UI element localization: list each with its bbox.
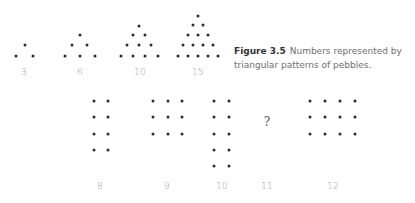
pebble-dot [71,44,74,47]
pebble-dot [79,34,82,37]
pebble-dot [197,15,200,18]
pebble-dot [177,55,180,58]
pebble-dot [32,55,35,58]
number-label: 3 [21,67,27,77]
pebble-dot [197,34,200,37]
number-label: 10 [134,67,146,77]
pebble-dot [157,55,160,58]
pebble-dot [213,149,216,152]
pebble-dot [24,44,27,47]
pebble-figure: 361015 8910?1112 Figure 3.5Numbers repre… [0,0,415,203]
number-label: 9 [164,181,170,191]
pebble-dot [339,133,342,136]
pebble-dot [354,133,357,136]
pebble-dot [192,44,195,47]
pebble-dot [354,100,357,103]
pebble-dot [228,116,231,119]
pebble-dot [217,55,220,58]
pebble-dot [94,55,97,58]
pebble-dot [93,100,96,103]
pebble-dot [120,55,123,58]
pebble-dot [152,116,155,119]
figure-label: Figure 3.5 [234,46,286,56]
number-label: 8 [97,181,103,191]
pebble-dot [132,55,135,58]
pebble-dot [126,44,129,47]
pebble-dot [213,100,216,103]
pebble-dot [132,34,135,37]
pebble-dot [228,149,231,152]
pebble-dot [197,55,200,58]
pebble-dot [152,133,155,136]
pebble-dot [93,116,96,119]
figure-caption: Figure 3.5Numbers represented by triangu… [234,44,414,72]
pebble-dot [15,55,18,58]
pebble-dot [167,100,170,103]
pebble-dot [339,116,342,119]
pebble-dot [182,44,185,47]
pebble-dot [93,149,96,152]
pebble-dot [181,116,184,119]
pebble-dot [107,133,110,136]
pebble-dot [228,100,231,103]
question-mark: ? [264,115,270,129]
pebble-dot [309,100,312,103]
pebble-dot [339,100,342,103]
pebble-dot [207,55,210,58]
pebble-dot [213,133,216,136]
number-label: 10 [216,181,228,191]
pebble-dot [213,165,216,168]
number-label: 6 [77,67,83,77]
pebble-dot [181,100,184,103]
pebble-dot [150,44,153,47]
pebble-dot [213,116,216,119]
pebble-dot [86,44,89,47]
pebble-dot [228,133,231,136]
pebble-dot [207,34,210,37]
pebble-dot [144,55,147,58]
pebble-dot [324,116,327,119]
pebble-dot [324,100,327,103]
number-label: 15 [192,67,204,77]
pebble-dot [152,100,155,103]
pebble-dot [107,116,110,119]
pebble-dot [167,116,170,119]
pebble-dot [324,133,327,136]
pebble-dot [202,24,205,27]
pebble-dot [187,34,190,37]
pebble-dot [192,24,195,27]
pebble-dot [354,116,357,119]
number-label: 12 [327,181,339,191]
pebble-dot [64,55,67,58]
pebble-dot [187,55,190,58]
pebble-dot [202,44,205,47]
pebble-dot [228,165,231,168]
pebble-dot [309,133,312,136]
pebble-dot [93,133,96,136]
pebble-dot [107,149,110,152]
pebble-dot [138,25,141,28]
pebble-dot [167,133,170,136]
pebble-dot [107,100,110,103]
number-label: 11 [261,181,273,191]
pebble-dot [181,133,184,136]
pebble-dot [309,116,312,119]
pebble-dot [138,44,141,47]
pebble-dot [79,55,82,58]
pebble-dot [212,44,215,47]
pebble-dot [144,34,147,37]
